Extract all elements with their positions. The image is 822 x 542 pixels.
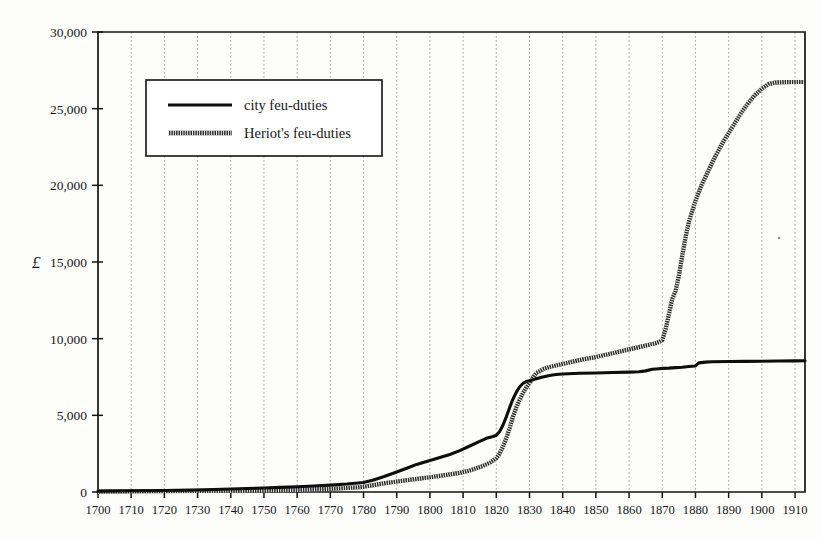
svg-text:1780: 1780: [351, 503, 376, 517]
svg-text:1850: 1850: [583, 503, 608, 517]
svg-text:1860: 1860: [616, 503, 641, 517]
svg-text:1750: 1750: [251, 503, 276, 517]
legend-label-heriot-feu-duties: Heriot's feu-duties: [244, 125, 351, 141]
svg-text:1820: 1820: [484, 503, 509, 517]
svg-text:1810: 1810: [451, 503, 476, 517]
svg-text:1910: 1910: [782, 503, 807, 517]
svg-text:1900: 1900: [749, 503, 774, 517]
svg-text:1740: 1740: [218, 503, 243, 517]
svg-text:1790: 1790: [384, 503, 409, 517]
svg-text:0: 0: [80, 485, 87, 500]
svg-text:25,000: 25,000: [50, 102, 87, 117]
chart-legend: city feu-duties Heriot's feu-duties: [146, 80, 382, 156]
scan-speck: [778, 237, 781, 240]
svg-text:1720: 1720: [152, 503, 177, 517]
svg-text:30,000: 30,000: [50, 25, 87, 40]
svg-text:1800: 1800: [417, 503, 442, 517]
svg-text:1830: 1830: [517, 503, 542, 517]
svg-text:1870: 1870: [650, 503, 675, 517]
svg-text:1880: 1880: [683, 503, 708, 517]
svg-text:10,000: 10,000: [50, 332, 87, 347]
svg-text:15,000: 15,000: [50, 255, 87, 270]
y-axis-tick-labels: 05,00010,00015,00020,00025,00030,000: [50, 25, 87, 500]
legend-label-city-feu-duties: city feu-duties: [244, 97, 328, 113]
x-axis-tick-labels: 1700171017201730174017501760177017801790…: [85, 503, 807, 517]
y-axis-unit-label: £: [32, 253, 41, 272]
series-line-city-feu-duties: [98, 361, 805, 491]
svg-text:1700: 1700: [85, 503, 110, 517]
svg-text:20,000: 20,000: [50, 178, 87, 193]
svg-text:1760: 1760: [285, 503, 310, 517]
legend-box: [146, 80, 382, 156]
svg-text:5,000: 5,000: [57, 408, 88, 423]
svg-text:1770: 1770: [318, 503, 343, 517]
chart-figure: 1700171017201730174017501760177017801790…: [0, 0, 822, 542]
svg-text:1710: 1710: [119, 503, 144, 517]
svg-text:1730: 1730: [185, 503, 210, 517]
svg-text:1840: 1840: [550, 503, 575, 517]
svg-text:1890: 1890: [716, 503, 741, 517]
line-chart: 1700171017201730174017501760177017801790…: [0, 0, 822, 542]
